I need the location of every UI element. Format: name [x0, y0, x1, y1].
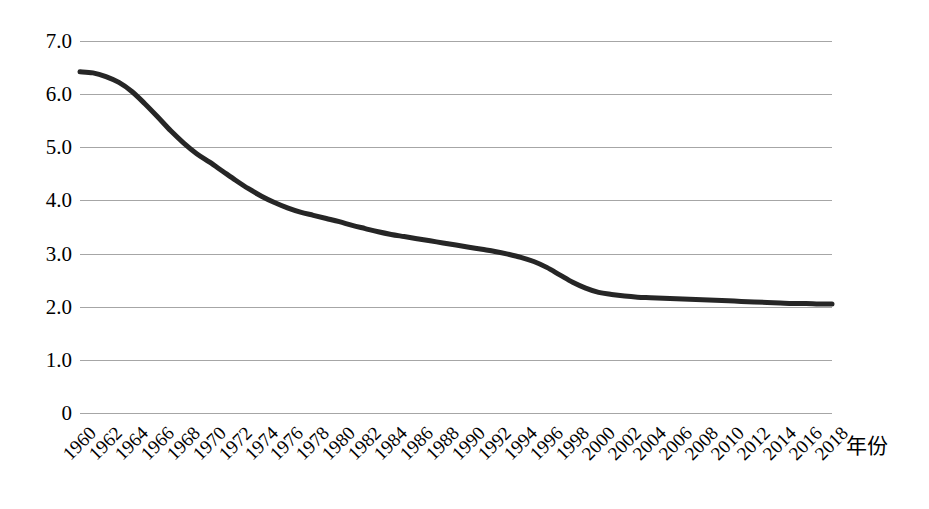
y-axis-tick-label: 0 [12, 403, 72, 424]
plot-area [80, 41, 832, 413]
y-axis-tick-label: 1.0 [12, 349, 72, 370]
x-axis: 1960196219641966196819701972197419761978… [80, 413, 832, 509]
y-axis-tick-label: 5.0 [12, 137, 72, 158]
series-line [80, 41, 832, 413]
y-axis-tick-label: 6.0 [12, 84, 72, 105]
y-axis-tick-label: 7.0 [12, 31, 72, 52]
y-axis-tick-label: 4.0 [12, 190, 72, 211]
y-axis-tick-label: 2.0 [12, 296, 72, 317]
fertility-rate-line-chart: 7.06.05.04.03.02.01.00 19601962196419661… [0, 0, 929, 509]
y-axis-tick-label: 3.0 [12, 243, 72, 264]
series-path [80, 72, 832, 304]
y-axis: 7.06.05.04.03.02.01.00 [8, 41, 72, 413]
x-axis-title: 年份 [846, 436, 888, 457]
